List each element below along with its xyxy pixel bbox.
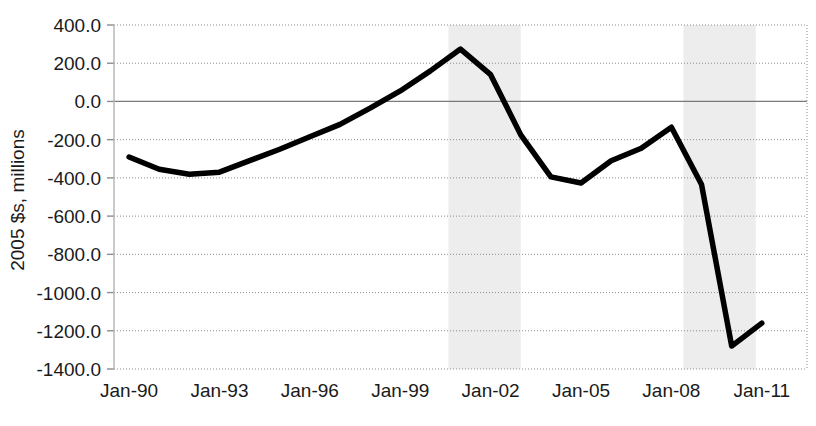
y-axis-tick-label: -1000.0 [37,283,101,304]
x-axis-tick-label: Jan-90 [100,380,158,401]
recession-band-2001 [448,25,520,369]
x-axis-tick-label: Jan-05 [552,380,610,401]
y-axis-tick-label: -200.0 [47,130,101,151]
y-axis-tick-label: -600.0 [47,206,101,227]
x-axis-tick-label: Jan-96 [281,380,339,401]
x-axis-tick-label: Jan-02 [462,380,520,401]
x-axis-tick-label: Jan-93 [190,380,248,401]
x-axis-tick-label: Jan-08 [642,380,700,401]
y-axis-tick-label: -1200.0 [37,321,101,342]
y-axis-title: 2005 $s, millions [7,129,28,271]
x-axis-tick-label: Jan-11 [733,380,790,401]
x-axis-tick-label: Jan-99 [371,380,429,401]
y-axis-tick-label: 200.0 [53,53,101,74]
recession-band-2008 [683,25,755,369]
line-chart: 400.0200.00.0-200.0-400.0-600.0-800.0-10… [0,0,816,426]
y-axis-tick-label: -400.0 [47,168,101,189]
y-axis-tick-label: 400.0 [53,15,101,36]
y-axis-tick-label: 0.0 [75,91,101,112]
y-axis-tick-label: -1400.0 [37,359,101,380]
y-axis-tick-label: -800.0 [47,244,101,265]
chart-container: 400.0200.00.0-200.0-400.0-600.0-800.0-10… [0,0,816,426]
